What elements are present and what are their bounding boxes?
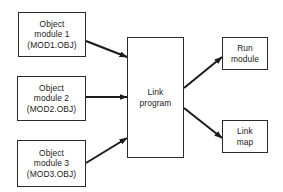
link-map-line-1: Link [237,126,253,137]
arrow-link-to-run [184,57,222,88]
object-module-3-box: Object module 3 (MOD3.OBJ) [17,140,86,187]
object-module-2-line-2: module 2 [34,93,69,104]
run-module-line-1: Run [237,43,253,54]
object-module-3-line-2: module 3 [34,158,69,169]
link-map-box: Link map [222,120,268,153]
arrow-link-to-map [184,108,222,138]
object-module-1-line-1: Object [40,19,65,30]
link-process-diagram: Object module 1 (MOD1.OBJ) Object module… [0,0,283,192]
link-program-line-2: program [140,98,172,109]
arrow-mod1-to-link [86,41,127,57]
object-module-2-line-1: Object [39,83,64,94]
link-program-line-1: Link [148,87,164,98]
object-module-3-line-3: (MOD3.OBJ) [27,169,76,180]
arrow-mod3-to-link [86,138,127,163]
object-module-1-line-3: (MOD1.OBJ) [27,40,76,51]
run-module-line-2: module [231,54,259,65]
object-module-3-line-1: Object [39,148,64,159]
object-module-2-line-3: (MOD2.OBJ) [27,104,76,115]
link-map-line-2: map [237,137,254,148]
run-module-box: Run module [222,37,268,70]
link-program-box: Link program [127,37,184,158]
object-module-1-line-2: module 1 [34,29,69,40]
object-module-2-box: Object module 2 (MOD2.OBJ) [17,76,86,121]
object-module-1-box: Object module 1 (MOD1.OBJ) [18,12,86,57]
